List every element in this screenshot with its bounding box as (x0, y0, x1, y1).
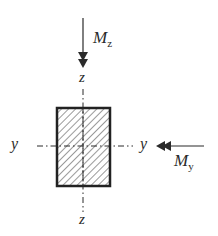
z-axis-label-bottom: z (78, 211, 85, 227)
y-axis-label-left: y (9, 135, 19, 153)
moment-z-label: Mz (92, 28, 112, 49)
moment-y-arrow (156, 141, 204, 151)
z-axis-label-top: z (78, 69, 85, 85)
moment-y-label: My (173, 151, 194, 172)
y-axis-label-right: y (138, 135, 148, 153)
cross-section-rectangle (57, 108, 110, 186)
cross-section-diagram: Mz z y y z My (0, 0, 218, 236)
moment-z-arrow (78, 18, 88, 68)
